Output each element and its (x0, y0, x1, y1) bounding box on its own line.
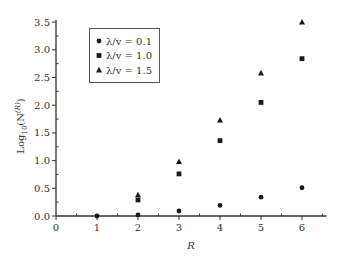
scatter-chart: 0.00.51.01.52.02.53.03.50123456 λ/v = 0.… (0, 0, 344, 261)
square-data-point (259, 100, 264, 105)
triangle-data-point (258, 70, 264, 76)
y-tick-label: 3.5 (34, 17, 50, 28)
x-tick-label: 2 (135, 222, 141, 233)
triangle-data-point (135, 192, 141, 198)
x-tick-label: 1 (94, 222, 100, 233)
y-tick-label: 3.0 (34, 44, 50, 55)
y-tick-label: 2.0 (34, 100, 50, 111)
legend-label: λ/v = 1.0 (106, 50, 152, 61)
x-tick-label: 4 (217, 222, 223, 233)
circle-data-point (218, 203, 223, 208)
y-tick-label: 1.0 (34, 155, 50, 166)
circle-data-point (136, 212, 141, 217)
y-tick-label: 1.5 (34, 127, 50, 138)
square-legend-icon (97, 53, 102, 58)
axes: 0.00.51.01.52.02.53.03.50123456 (34, 17, 326, 233)
x-axis-label: R (186, 240, 195, 251)
circle-data-point (177, 209, 182, 214)
circle-data-point (259, 195, 264, 200)
legend: λ/v = 0.1λ/v = 1.0λ/v = 1.5 (90, 29, 160, 83)
legend-label: λ/v = 0.1 (106, 36, 152, 47)
triangle-data-point (217, 117, 223, 123)
y-tick-label: 0.5 (34, 183, 50, 194)
y-tick-label: 0.0 (34, 211, 50, 222)
triangle-data-point (176, 159, 182, 165)
square-data-point (218, 138, 223, 143)
circle-legend-icon (97, 39, 102, 44)
square-data-point (177, 171, 182, 176)
square-data-point (136, 198, 141, 203)
y-axis-label: Log10(N(R)) (14, 98, 29, 153)
y-tick-label: 2.5 (34, 72, 50, 83)
circle-data-point (95, 214, 100, 219)
x-tick-label: 0 (53, 222, 59, 233)
triangle-data-point (299, 19, 305, 25)
square-data-point (300, 56, 305, 61)
x-tick-label: 5 (258, 222, 264, 233)
x-tick-label: 6 (299, 222, 305, 233)
circle-data-point (300, 185, 305, 190)
x-tick-label: 3 (176, 222, 182, 233)
legend-label: λ/v = 1.5 (106, 65, 152, 76)
